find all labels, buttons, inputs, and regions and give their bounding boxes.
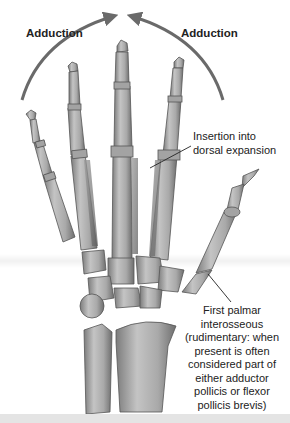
radius bbox=[116, 322, 176, 412]
little-finger-bones bbox=[26, 110, 75, 242]
callout-line: dorsal expansion bbox=[193, 144, 290, 158]
callout-line: present is often bbox=[174, 345, 290, 359]
palmar-leader-line bbox=[208, 274, 231, 302]
callout-line: First palmar bbox=[174, 304, 290, 318]
callout-line: Insertion into bbox=[193, 130, 290, 144]
adduction-label-right: Adduction bbox=[181, 27, 238, 39]
callout-line: considered part of bbox=[174, 358, 290, 372]
insertion-callout: Insertion into dorsal expansion bbox=[193, 130, 290, 157]
middle-finger-bones bbox=[111, 40, 133, 260]
callout-line: pollicis or flexor bbox=[174, 385, 290, 399]
first-palmar-interosseous-callout: First palmar interosseous (rudimentary: … bbox=[174, 304, 290, 412]
adduction-label-left: Adduction bbox=[26, 27, 83, 39]
callout-line: (rudimentary: when bbox=[174, 331, 290, 345]
thumb-bones bbox=[182, 169, 259, 294]
hand-diagram: Adduction Adduction Insertion into dorsa… bbox=[0, 0, 290, 423]
carpal-bones bbox=[80, 250, 184, 318]
ulna bbox=[84, 324, 112, 414]
bottom-divider-band bbox=[0, 414, 290, 423]
callout-line: interosseous bbox=[174, 318, 290, 332]
forearm-bones bbox=[84, 322, 176, 414]
callout-line: pollicis brevis) bbox=[174, 399, 290, 413]
callout-line: either adductor bbox=[174, 372, 290, 386]
